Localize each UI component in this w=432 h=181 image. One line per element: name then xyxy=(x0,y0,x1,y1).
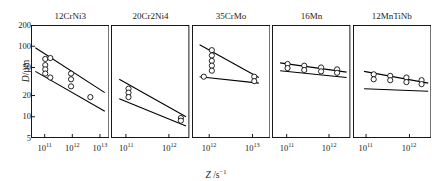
chart-panel-20cr2ni4: 20Cr2Ni410111012 xyxy=(111,25,189,138)
x-axis-tick-label: 1011 xyxy=(280,140,294,153)
panel-plot-area xyxy=(353,25,431,138)
data-point-marker xyxy=(371,77,376,82)
x-axis-tick-label: 1012 xyxy=(402,140,417,153)
x-axis-tick-label: 1012 xyxy=(322,140,337,153)
trend-line-lower xyxy=(199,77,258,83)
x-axis-tick-label: 1012 xyxy=(162,140,177,153)
y-axis-tick-label: 100 xyxy=(1,42,31,51)
y-axis-tick-label: 20 xyxy=(1,91,31,100)
chart-panel-16mn: 16Mn10111012 xyxy=(272,25,350,138)
data-point-marker xyxy=(126,95,131,100)
data-point-marker xyxy=(201,74,206,79)
data-point-marker xyxy=(371,72,376,77)
panel-title: 12MnTiNb xyxy=(353,11,431,22)
x-axis-label: Z /s−1 xyxy=(0,168,432,180)
panel-plot-area xyxy=(111,25,189,138)
x-axis-tick-label: 1011 xyxy=(37,140,51,153)
panel-title: 16Mn xyxy=(272,11,350,22)
data-point-marker xyxy=(179,118,184,123)
y-axis-tick-label: 5 xyxy=(1,134,31,143)
data-point-marker xyxy=(209,53,214,58)
y-axis-tick-label: 50 xyxy=(1,63,31,72)
x-axis-tick-label: 1013 xyxy=(93,140,108,153)
data-point-marker xyxy=(319,69,324,74)
data-point-marker xyxy=(251,79,256,84)
trend-line-lower xyxy=(120,99,187,126)
data-point-marker xyxy=(335,70,340,75)
data-point-marker xyxy=(403,80,408,85)
y-axis-tick-group: 2001005020105 xyxy=(0,0,31,181)
data-point-marker xyxy=(68,77,73,82)
panel-title: 35CrMo xyxy=(192,11,270,22)
x-axis-tick-label: 1012 xyxy=(65,140,80,153)
data-point-marker xyxy=(387,78,392,83)
panel-frame xyxy=(192,26,269,138)
x-axis-tick-label: 1012 xyxy=(202,140,217,153)
panel-title: 20Cr2Ni4 xyxy=(111,11,189,22)
x-axis-tick-label: 1011 xyxy=(119,140,133,153)
data-point-marker xyxy=(209,48,214,53)
figure-root: D/μm 2001005020105 Z /s−1 12CrNi31011101… xyxy=(0,0,432,181)
panel-title: 12CrNi3 xyxy=(31,11,109,22)
data-point-marker xyxy=(302,67,307,72)
x-axis-label-exponent: −1 xyxy=(220,168,227,175)
data-point-marker xyxy=(419,82,424,87)
x-axis-tick-label: 1013 xyxy=(245,140,260,153)
data-point-marker xyxy=(43,56,48,61)
panel-plot-area xyxy=(31,25,109,138)
data-point-marker xyxy=(43,71,48,76)
y-axis-tick-label: 200 xyxy=(1,21,31,30)
chart-panel-12mntinb: 12MnTiNb10111012 xyxy=(353,25,431,138)
data-point-marker xyxy=(68,84,73,89)
trend-line-lower xyxy=(364,89,428,92)
panel-plot-area xyxy=(192,25,270,138)
data-point-marker xyxy=(88,95,93,100)
x-axis-label-unit: /s xyxy=(211,170,220,180)
data-point-marker xyxy=(209,68,214,73)
data-point-marker xyxy=(48,75,53,80)
chart-panel-35crmo: 35CrMo10121013 xyxy=(192,25,270,138)
data-point-marker xyxy=(209,63,214,68)
data-point-marker xyxy=(48,55,53,60)
panel-plot-area xyxy=(272,25,350,138)
trend-line-upper xyxy=(199,45,258,78)
y-axis-tick-label: 10 xyxy=(1,112,31,121)
data-point-marker xyxy=(285,65,290,70)
data-point-marker xyxy=(68,71,73,76)
chart-panel-12crni3: 12CrNi3101110121013 xyxy=(31,25,109,138)
x-axis-tick-label: 1011 xyxy=(358,140,372,153)
panel-frame xyxy=(273,26,350,138)
